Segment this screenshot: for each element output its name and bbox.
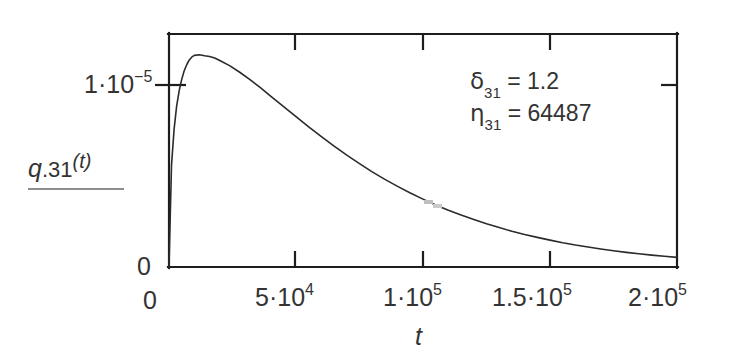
eta-equation: = 64487 [501,100,591,126]
x-tick-exponent: 5 [433,281,442,298]
curve-scan-artifact [424,200,442,208]
y-axis-title-arg: (t) [73,150,92,172]
data-curve-q31 [169,55,677,267]
x-axis-title: t [415,322,422,351]
y-axis-title-index: .31 [42,157,73,182]
x-tick-label-200000: 2·105 [628,283,687,312]
delta-subscript: 31 [484,84,501,101]
x-tick-label-0: 0 [143,286,157,315]
delta-symbol: δ [470,68,484,94]
y-axis-title: q.31(t) [28,150,91,183]
delta-equation: = 1.2 [501,68,559,94]
chart-plot-area [0,0,737,362]
y-axis-title-underline [28,188,124,190]
x-tick-exponent: 4 [305,281,314,298]
eta-symbol: η [470,100,485,126]
y-tick-exponent: −5 [134,68,152,85]
figure-panel: 1·10−5 0 0 5·104 1·105 1.5·105 2·105 t q… [0,0,737,362]
eta-subscript: 31 [485,116,502,133]
y-tick-label-0: 0 [137,252,151,281]
x-tick-label-100000: 1·105 [383,283,442,312]
plot-frame [168,33,678,268]
annotation-eta: η31 = 64487 [470,100,591,130]
x-tick-exponent: 5 [678,281,687,298]
y-axis-title-var: q [28,154,42,182]
x-tick-label-50000: 5·104 [255,283,314,312]
annotation-delta: δ31 = 1.2 [470,68,559,98]
x-tick-label-150000: 1.5·105 [492,283,572,312]
x-tick-exponent: 5 [563,281,572,298]
y-tick-label-1e-5: 1·10−5 [84,70,152,99]
